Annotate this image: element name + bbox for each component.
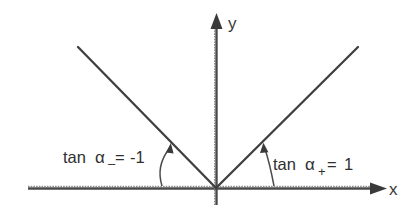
annotation-left-alpha: α	[95, 148, 105, 167]
annotation-left-prefix: tan	[63, 148, 86, 166]
x-axis-arrowhead	[370, 183, 387, 195]
annotation-right-prefix: tan	[273, 155, 296, 173]
annotation-left-branch-slope: tan α – = -1	[63, 148, 145, 171]
annotation-right-value: 1	[344, 155, 353, 173]
right-leader-arrow	[260, 143, 274, 186]
absolute-value-curve	[78, 47, 358, 188]
annotation-right-subscript: +	[318, 164, 326, 179]
x-axis-label: x	[389, 180, 398, 199]
y-axis-arrowhead	[211, 13, 223, 29]
math-diagram: x y tan α – = -1 tan α + = 1	[0, 0, 418, 213]
annotation-left-value: -1	[130, 148, 145, 166]
annotation-left-equals: =	[115, 148, 125, 166]
figure-canvas: x y tan α – = -1 tan α + = 1	[0, 0, 418, 213]
left-leader-line	[160, 149, 169, 186]
annotation-right-branch-slope: tan α + = 1	[273, 155, 353, 179]
y-axis-label: y	[228, 14, 237, 33]
annotation-right-equals: =	[327, 155, 337, 173]
left-leader-arrow	[160, 143, 174, 186]
y-axis	[211, 13, 223, 205]
x-axis	[28, 183, 387, 195]
annotation-right-alpha: α	[305, 155, 315, 174]
